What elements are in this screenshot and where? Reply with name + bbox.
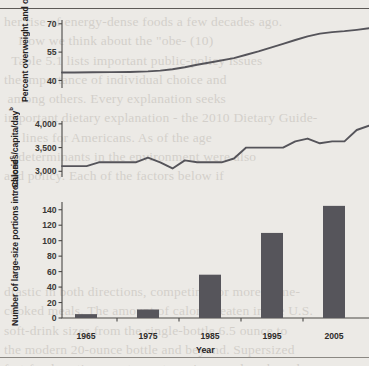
panel-portions-chart: 020406080100120140: [28, 200, 369, 330]
panel1-y-axis-label: Percent overweight and obesea: [16, 18, 38, 102]
y-tick-label: 60: [47, 267, 57, 277]
y-tick-label: 3,500: [35, 143, 57, 153]
panel-overweight-chart: 405570: [38, 14, 369, 108]
y-tick-label: 120: [42, 220, 57, 230]
y-tick-label: 140: [42, 205, 57, 215]
x-tick-label-1995: 1995: [252, 331, 292, 341]
panel3-y-axis-label-sup: c: [8, 156, 14, 159]
y-tick-label: 20: [47, 298, 57, 308]
y-tick-label: 100: [42, 236, 57, 246]
x-tick-label-2005: 2005: [314, 331, 354, 341]
top-rule: [0, 8, 369, 9]
y-tick-label: 40: [47, 76, 57, 86]
y-tick-label: 3,000: [35, 166, 57, 176]
y-tick-label: 0: [52, 313, 57, 323]
y-tick-label: 55: [47, 47, 57, 57]
bar-1985: [199, 275, 221, 318]
figure-multipanel-obesity: her rise of energy-dense foods a few dec…: [0, 0, 369, 366]
panel3-y-axis-label: Number of large-size portions introduced…: [6, 206, 28, 326]
bar-1995: [261, 233, 283, 318]
y-tick-label: 4,000: [35, 119, 57, 129]
x-tick-label-1985: 1985: [190, 331, 230, 341]
panel-calories-chart: 3,0003,5004,000: [20, 115, 369, 195]
data-series-line: [62, 28, 369, 72]
panel1-y-axis-label-text: Percent overweight and obese: [20, 0, 30, 102]
x-tick-label-1965: 1965: [66, 331, 106, 341]
y-tick-label: 80: [47, 251, 57, 261]
bar-1965: [75, 314, 97, 318]
bar-2005: [323, 206, 345, 318]
panel2-y-axis-label-sup: b: [8, 107, 14, 111]
y-tick-label: 40: [47, 282, 57, 292]
x-axis-label: Year: [196, 345, 215, 355]
data-series-line: [62, 126, 369, 169]
y-tick-label: 70: [47, 19, 57, 29]
bottom-rule: [0, 357, 369, 358]
bar-1975: [137, 309, 159, 318]
x-tick-label-1975: 1975: [128, 331, 168, 341]
panel3-y-axis-label-text: Number of large-size portions introduced: [10, 160, 20, 326]
